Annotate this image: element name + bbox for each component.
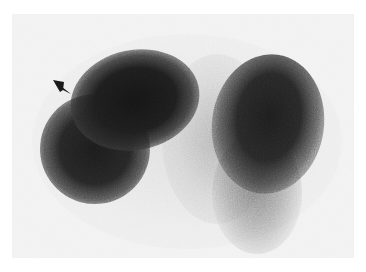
arrowhead-pointer-icon: [52, 78, 72, 96]
scan-image: [12, 14, 354, 258]
grain-texture: [12, 14, 354, 258]
